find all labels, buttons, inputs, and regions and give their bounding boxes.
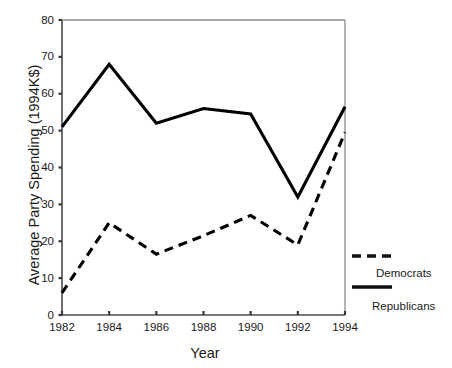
- y-axis-title: Average Party Spending (1994K$): [26, 55, 42, 295]
- series-line-democrats: [62, 132, 345, 292]
- chart-figure: 01020304050607080 1982198419861988199019…: [0, 0, 452, 368]
- legend-label-republicans: Republicans: [372, 300, 435, 312]
- y-tick-label: 0: [28, 309, 54, 321]
- x-tick-label: 1992: [275, 321, 321, 333]
- x-tick-label: 1988: [181, 321, 227, 333]
- x-tick-label: 1994: [322, 321, 368, 333]
- x-tick-label: 1986: [133, 321, 179, 333]
- x-axis-title: Year: [0, 345, 410, 361]
- legend-label-democrats: Democrats: [376, 267, 432, 279]
- x-tick-label: 1984: [86, 321, 132, 333]
- y-tick-label: 80: [28, 14, 54, 26]
- series-line-republicans: [62, 64, 345, 197]
- chart-canvas: [0, 0, 452, 368]
- x-tick-label: 1990: [228, 321, 274, 333]
- x-tick-label: 1982: [39, 321, 85, 333]
